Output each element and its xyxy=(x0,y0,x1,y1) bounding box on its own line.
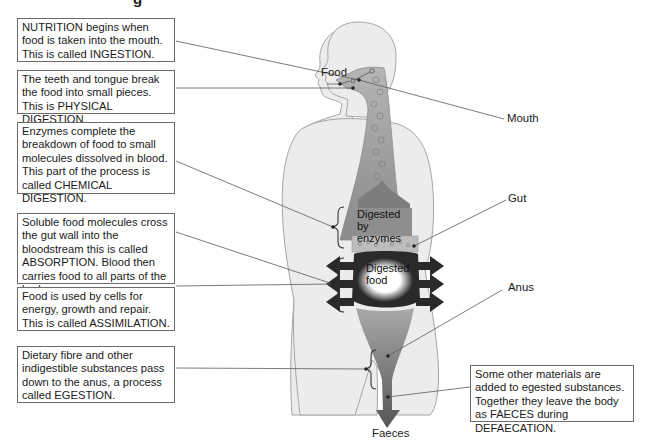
anus-label: Anus xyxy=(508,281,534,293)
mouth-label: Mouth xyxy=(507,112,539,124)
digested-food-label: Digested food xyxy=(366,262,406,286)
food-label: Food xyxy=(321,66,347,78)
gut-label: Gut xyxy=(508,192,526,204)
digested-by-enzymes-label: Digested by enzymes xyxy=(357,208,413,244)
faeces-label: Faeces xyxy=(372,427,409,439)
egestion-box: Dietary fibre and other indigestible sub… xyxy=(17,346,175,403)
title-fragment: g xyxy=(133,0,142,7)
chemical-digestion-box: Enzymes complete the breakdown of food t… xyxy=(17,122,175,194)
assimilation-box: Food is used by cells for energy, growth… xyxy=(17,287,175,331)
physical-digestion-box: The teeth and tongue break the food into… xyxy=(17,70,175,114)
ingestion-box: NUTRITION begins when food is taken into… xyxy=(17,18,175,62)
absorption-box: Soluble food molecules cross the gut wal… xyxy=(17,213,175,284)
defaecation-box: Some other materials are added to egeste… xyxy=(470,365,634,422)
